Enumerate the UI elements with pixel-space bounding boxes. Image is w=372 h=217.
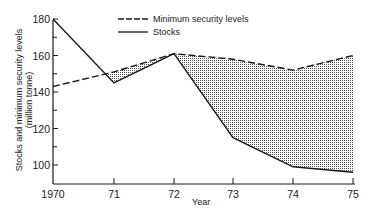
y-axis-label-line2: (million tonne)	[24, 72, 34, 129]
x-tick-label: 74	[287, 188, 299, 200]
y-tick-label: 100	[32, 159, 50, 171]
y-axis-label-line1: Stocks and minimum security levels	[14, 28, 24, 171]
shortfall-areas	[105, 54, 353, 173]
y-ticks: 100120140160180	[32, 13, 58, 171]
x-tick-label: 71	[108, 188, 120, 200]
shortfall-area	[293, 56, 353, 173]
x-tick-label: 1970	[41, 188, 65, 200]
y-axis-label: Stocks and minimum security levels (mill…	[14, 28, 34, 171]
x-tick-label: 75	[347, 188, 359, 200]
legend-stocks-label: Stocks	[153, 27, 181, 37]
x-tick-label: 72	[168, 188, 180, 200]
shortfall-area	[233, 59, 293, 167]
legend-min-label: Minimum security levels	[153, 14, 249, 24]
y-tick-label: 120	[32, 123, 50, 135]
chart: 100120140160180 19707172737475 Minimum s…	[0, 0, 372, 217]
y-tick-label: 160	[32, 50, 50, 62]
y-tick-label: 180	[32, 13, 50, 25]
x-axis-label: Year	[192, 197, 210, 207]
y-tick-label: 140	[32, 86, 50, 98]
legend: Minimum security levels Stocks	[118, 14, 249, 37]
x-tick-label: 73	[227, 188, 239, 200]
